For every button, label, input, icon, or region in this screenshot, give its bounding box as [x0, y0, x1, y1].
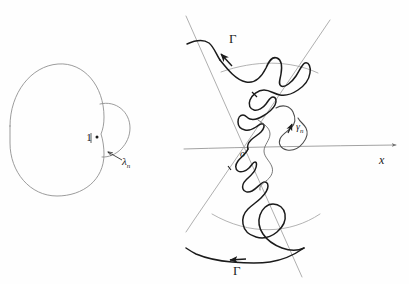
contour-upper-tail — [187, 40, 220, 60]
contour-lower-arrow — [230, 259, 246, 260]
left-panel-group: 1 λn — [10, 64, 131, 196]
label-lambda-n: λn — [121, 155, 131, 170]
diagram-canvas: 1 λn — [0, 0, 409, 284]
label-gamma-bottom: Γ — [233, 263, 241, 278]
point-one-dot — [96, 136, 99, 139]
contour-upper-body — [220, 58, 310, 149]
label-one: 1 — [86, 131, 92, 143]
label-x-axis: x — [378, 153, 385, 167]
lower-cone-arc — [212, 214, 320, 230]
label-origin: o — [240, 148, 245, 159]
label-gamma-top: Γ — [229, 31, 237, 46]
x-axis-line — [184, 145, 396, 149]
contour-lower-body — [236, 149, 304, 250]
contour-lower-tail — [186, 248, 304, 263]
small-arc-lambda-n — [100, 103, 130, 157]
right-panel-group: Γ Γ γn o x — [184, 16, 396, 278]
unit-circle — [10, 64, 104, 196]
contour-fine-oscillation — [258, 120, 273, 190]
diagram-svg: 1 λn — [0, 0, 409, 284]
gamma-n-arrow — [288, 124, 292, 133]
